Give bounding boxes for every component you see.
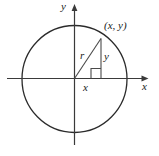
- circle-diagram-figure: y x (x, y) r y x: [0, 0, 159, 156]
- y-axis-arrowhead-icon: [72, 4, 78, 11]
- radius-segment: [75, 39, 102, 79]
- vertical-segment-label: y: [104, 51, 109, 62]
- right-angle-marker-icon: [91, 69, 101, 79]
- horizontal-segment-label: x: [83, 82, 88, 93]
- y-axis-label: y: [61, 1, 66, 12]
- radius-label: r: [80, 50, 84, 61]
- diagram-canvas: [0, 0, 159, 156]
- point-coordinate-label: (x, y): [104, 20, 127, 31]
- x-axis-label: x: [142, 81, 147, 92]
